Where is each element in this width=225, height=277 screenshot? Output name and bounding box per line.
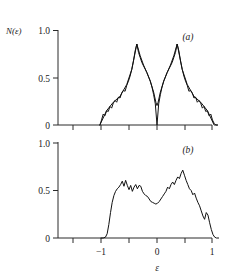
panel-b-label: (b) — [182, 145, 193, 156]
x-axis-title: ε — [155, 263, 159, 273]
panel-a: 1.0 0.5 0 N(ε) (a) — [5, 26, 217, 131]
panel-b-ylabel-1: 1.0 — [38, 139, 50, 149]
panel-b-ylabel-half: 0.5 — [38, 186, 50, 196]
xlabel-minus-one: −1 — [96, 247, 106, 257]
panel-a-ylabel-half: 0.5 — [38, 74, 50, 84]
panel-a-ylabel-zero: 0 — [45, 121, 50, 131]
dos-figure: 1.0 0.5 0 N(ε) (a) — [0, 0, 225, 277]
panel-a-smooth-envelope — [100, 44, 218, 125]
figure-container: 1.0 0.5 0 N(ε) (a) — [0, 0, 225, 277]
y-axis-title: N(ε) — [5, 26, 22, 36]
panel-b-ylabel-zero: 0 — [45, 234, 50, 244]
panel-a-jagged-data — [100, 44, 218, 125]
panel-b: 1.0 0.5 0 −1 0 1 ε (b) — [38, 139, 218, 274]
panel-b-dos-curve — [101, 170, 219, 238]
xlabel-one: 1 — [210, 247, 215, 257]
panel-a-ylabel-1: 1.0 — [38, 26, 50, 36]
xlabel-zero: 0 — [155, 247, 160, 257]
panel-a-label: (a) — [182, 32, 193, 43]
